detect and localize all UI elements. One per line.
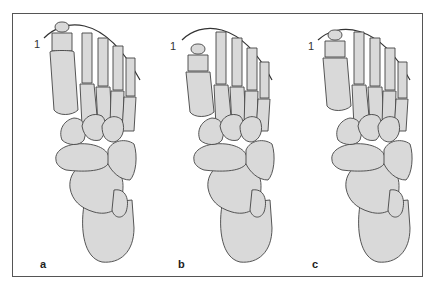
panel-label-a: a — [40, 258, 46, 270]
foot-diagram-c — [298, 0, 433, 289]
foot-diagram-a — [22, 0, 157, 289]
arc-label-a: 1 — [34, 38, 40, 50]
panel-label-c: c — [312, 258, 318, 270]
panel-label-b: b — [178, 258, 185, 270]
arc-label-c: 1 — [308, 40, 314, 52]
arc-label-b: 1 — [170, 40, 176, 52]
foot-diagram-b — [160, 0, 295, 289]
